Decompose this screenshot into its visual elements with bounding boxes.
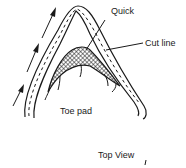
cut-line-leader-line <box>106 43 143 50</box>
toe-pad-label: Toe pad <box>60 107 92 116</box>
direction-arrow-icon <box>13 84 24 106</box>
claw-diagram <box>0 0 186 168</box>
view-tick-mark <box>145 160 146 165</box>
view-label: Top View <box>98 151 134 160</box>
direction-arrow-icon <box>42 7 56 38</box>
cut-line-label: Cut line <box>145 39 176 48</box>
quick-label: Quick <box>111 7 134 16</box>
